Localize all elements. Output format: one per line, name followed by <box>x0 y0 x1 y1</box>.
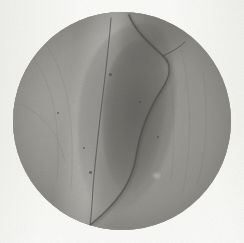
microscope-field-of-view <box>13 12 231 230</box>
photomicrograph-figure <box>0 0 244 243</box>
field-grain-texture <box>13 12 231 229</box>
